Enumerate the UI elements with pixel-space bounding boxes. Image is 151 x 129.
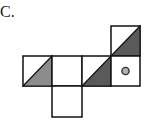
face-center-left	[52, 56, 82, 86]
cube-net-diagram	[0, 0, 151, 129]
face-left	[23, 56, 52, 86]
circle-icon	[122, 67, 129, 74]
face-bottom	[52, 86, 82, 117]
face-center-right	[82, 56, 111, 86]
face-top-right	[111, 26, 140, 56]
face-right	[111, 56, 140, 86]
